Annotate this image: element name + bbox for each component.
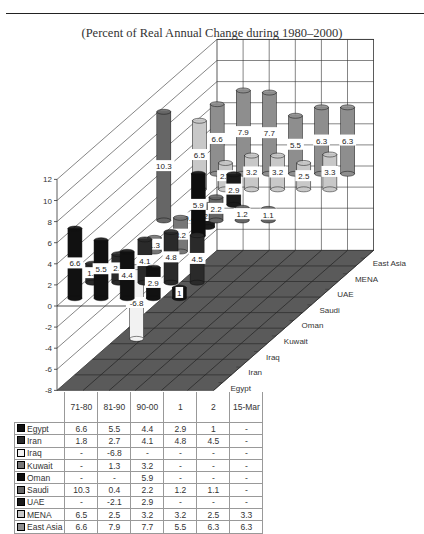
depth-axis-label: Iraq (266, 353, 280, 362)
bar-mena: 3.3 (321, 152, 338, 192)
legend-swatch-icon (17, 486, 25, 494)
y-tick-label: 10 (43, 197, 52, 206)
table-cell: -2.1 (98, 496, 131, 508)
legend-label: Iran (27, 436, 42, 446)
bar-saudi: 2.2 (208, 195, 225, 223)
table-cell: 6.3 (197, 521, 230, 533)
bar-iran: 4.8 (163, 230, 180, 286)
table-cell: - (65, 496, 98, 508)
table-cell: - (197, 496, 230, 508)
table-cell: - (197, 472, 230, 484)
bar-egypt: 2.9 (145, 265, 162, 301)
data-label: 2.5 (298, 172, 310, 181)
data-label: 3.2 (272, 168, 284, 177)
y-tick-label: 2 (48, 281, 53, 290)
legend-swatch-icon (17, 498, 25, 506)
bar-egypt: 6.6 (67, 226, 84, 301)
table-cell: 1.1 (197, 484, 230, 496)
table-cell: - (230, 423, 263, 435)
legend-swatch-icon (17, 424, 25, 432)
table-cell: 5.5 (98, 423, 131, 435)
table-cell: 7.7 (131, 521, 164, 533)
table-cell: - (230, 484, 263, 496)
data-label: 5.9 (193, 201, 205, 210)
table-row: MENA6.52.53.23.22.53.3 (15, 509, 263, 521)
legend-entry: Saudi (15, 484, 65, 496)
depth-axis-label: Iran (248, 368, 262, 377)
table-cell: 4.4 (131, 423, 164, 435)
depth-axis-label: Saudi (319, 306, 340, 315)
table-cell: 3.2 (131, 459, 164, 471)
table-cell: - (230, 472, 263, 484)
data-label: 1.1 (263, 211, 275, 220)
table-cell: 2.7 (98, 435, 131, 447)
legend-label: Oman (27, 473, 50, 483)
table-cell: 6.3 (230, 521, 263, 533)
bar-saudi: 1.1 (260, 206, 277, 223)
table-cell: 1.8 (65, 435, 98, 447)
table-header-row: 71-80 81-90 90-00 1 2 15-Mar (15, 392, 263, 423)
legend-swatch-icon (17, 461, 25, 469)
table-cell: -6.8 (98, 447, 131, 459)
y-tick-label: 0 (48, 302, 53, 311)
bar-east-asia: 6.3 (339, 105, 356, 176)
legend-entry: East Asia (15, 521, 65, 533)
table-cell: - (131, 447, 164, 459)
legend-swatch-icon (17, 436, 25, 444)
legend-label: Egypt (27, 424, 49, 434)
legend-swatch-icon (17, 449, 25, 457)
table-row: Iraq--6.8---- (15, 447, 263, 459)
table-cell: - (65, 459, 98, 471)
legend-label: UAE (27, 497, 44, 507)
data-label: 3.2 (246, 168, 258, 177)
bar-saudi: 1.2 (234, 205, 251, 223)
depth-axis-label: East Asia (373, 259, 407, 268)
table-cell: 6.6 (65, 521, 98, 533)
legend-label: MENA (27, 510, 52, 520)
data-label: 2.9 (228, 186, 240, 195)
table-cell: 3.2 (131, 509, 164, 521)
y-tick-label: 4 (48, 260, 53, 269)
bar-mena: 3.2 (269, 153, 286, 192)
table-cell: - (65, 447, 98, 459)
data-label: 1 (177, 289, 182, 298)
table-cell: 5.9 (131, 472, 164, 484)
bar-egypt: 1 (172, 285, 186, 301)
data-label: 4.1 (139, 257, 151, 266)
y-tick-label: -6 (45, 365, 53, 374)
data-label: 7.7 (264, 129, 276, 138)
table-cell: 5.5 (164, 521, 197, 533)
legend-entry: UAE (15, 496, 65, 508)
table-row: East Asia6.67.97.75.56.36.3 (15, 521, 263, 533)
legend-entry: Oman (15, 472, 65, 484)
legend-swatch-icon (17, 510, 25, 518)
data-label: 4.5 (192, 255, 204, 264)
column-header: 2 (197, 392, 230, 423)
table-cell: - (197, 459, 230, 471)
table-cell: 3.3 (230, 509, 263, 521)
table-cell: - (197, 447, 230, 459)
table-cell: 1.3 (98, 459, 131, 471)
bar-oman: 5.9 (190, 171, 207, 238)
data-label: 1.2 (237, 210, 249, 219)
table-cell: 2.9 (164, 423, 197, 435)
table-row: UAE--2.12.9--- (15, 496, 263, 508)
depth-axis-label: Oman (302, 321, 324, 330)
legend-label: Saudi (27, 485, 49, 495)
table-cell: 6.6 (65, 423, 98, 435)
data-label: 6.6 (212, 135, 224, 144)
table-cell: - (230, 435, 263, 447)
data-label: 6.3 (316, 137, 328, 146)
data-label: 6.3 (342, 137, 354, 146)
table-cell: 3.2 (164, 509, 197, 521)
table-row: Iran1.82.74.14.84.5- (15, 435, 263, 447)
data-label: 5.5 (95, 265, 107, 274)
table-cell: - (98, 472, 131, 484)
table-cell: 2.5 (197, 509, 230, 521)
table-row: Oman--5.9--- (15, 472, 263, 484)
bar-mena: 3.2 (243, 153, 260, 192)
table-cell: - (230, 447, 263, 459)
data-label: 4.4 (122, 271, 134, 280)
table-cell: - (164, 447, 197, 459)
table-cell: 4.1 (131, 435, 164, 447)
